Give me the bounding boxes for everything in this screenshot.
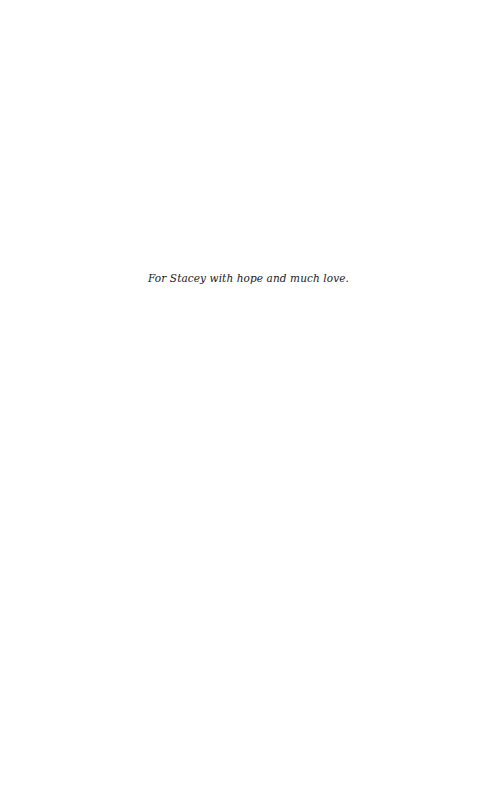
book-page: For Stacey with hope and much love. — [0, 0, 497, 788]
dedication-text: For Stacey with hope and much love. — [0, 271, 497, 285]
